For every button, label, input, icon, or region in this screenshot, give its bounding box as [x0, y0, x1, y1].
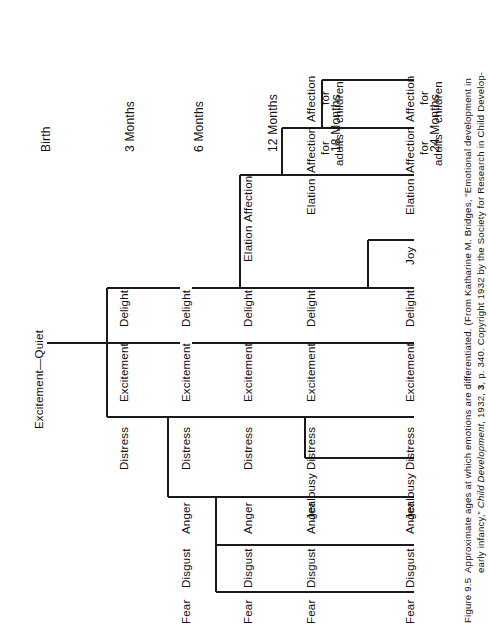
node-m24-affection-for-children-line3: children — [433, 81, 445, 123]
node-m18-elation: Elation — [306, 178, 318, 215]
caption-volume: 3 — [475, 385, 486, 391]
node-m18-disgust: Disgust — [306, 548, 318, 588]
node-m12-elation: Elation — [243, 225, 255, 262]
axis-header-12-months: 12 Months — [267, 94, 279, 152]
figure-number: Figure 9.5 — [461, 578, 475, 623]
axis-header-birth: Birth — [40, 126, 52, 152]
node-m24-delight: Delight — [405, 290, 417, 327]
node-m12-distress: Distress — [243, 427, 255, 470]
node-m12-excitement: Excitement — [243, 343, 255, 402]
figure-caption-line-2: early infancy,” Child Development, 1932,… — [474, 72, 488, 573]
node-m18-anger: Anger — [306, 502, 318, 534]
node-m6-excitement: Excitement — [181, 343, 193, 402]
caption-journal-title: Child Development — [475, 424, 486, 508]
caption-seg-a: early infancy,” — [475, 508, 486, 573]
node-m24-affection-for-adults-line3: adults — [433, 134, 445, 166]
node-m6-delight: Delight — [181, 290, 193, 327]
figure-9-5: Birth 3 Months 6 Months 12 Months 18 Mon… — [0, 0, 488, 631]
node-m18-excitement: Excitement — [306, 343, 318, 402]
node-m18-affection-for-children-line2: for — [320, 91, 332, 105]
node-m6-fear: Fear — [181, 600, 193, 624]
node-m24-affection-for-children-line1: Affection — [405, 76, 417, 122]
node-m6-disgust: Disgust — [181, 548, 193, 588]
node-m6-anger: Anger — [181, 502, 193, 534]
node-m12-delight: Delight — [243, 290, 255, 327]
figure-caption-line-1: Approximate ages at which emotions are d… — [461, 78, 475, 573]
node-m24-affection-for-children-line2: for — [419, 91, 431, 105]
node-m24-disgust: Disgust — [405, 548, 417, 588]
node-m18-fear: Fear — [306, 600, 318, 624]
node-m3-distress: Distress — [119, 427, 131, 470]
caption-seg-c: , p. 340. Copyright 1932 by the Society … — [475, 72, 486, 385]
node-m3-delight: Delight — [119, 290, 131, 327]
node-m12-fear: Fear — [243, 600, 255, 624]
node-birth-excitement-quiet: Excitement—Quiet — [34, 330, 46, 429]
node-m24-joy: Joy — [405, 247, 417, 266]
node-m18-affection-for-children-line3: children — [334, 81, 346, 123]
node-m6-distress: Distress — [181, 427, 193, 470]
node-m18-affection-for-adults-line1: Affection — [306, 127, 318, 173]
node-m12-anger: Anger — [243, 502, 255, 534]
node-m24-distress: Distress — [405, 427, 417, 470]
node-m18-affection-for-adults-line2: for — [320, 141, 332, 155]
node-m24-affection-for-adults-line2: for — [419, 141, 431, 155]
axis-header-3-months: 3 Months — [124, 101, 136, 152]
node-m18-affection-for-children-line1: Affection — [306, 76, 318, 122]
axis-header-6-months: 6 Months — [193, 101, 205, 152]
node-m24-elation: Elation — [405, 178, 417, 215]
node-m18-affection-for-adults-line3: adults — [334, 134, 346, 166]
node-m3-excitement: Excitement — [119, 343, 131, 402]
node-m12-disgust: Disgust — [243, 548, 255, 588]
node-m24-affection-for-adults-line1: Affection — [405, 127, 417, 173]
node-m24-fear: Fear — [405, 600, 417, 624]
node-m24-excitement: Excitement — [405, 343, 417, 402]
node-m18-distress: Distress — [306, 427, 318, 470]
caption-seg-b: , 1932, — [475, 390, 486, 424]
node-m18-delight: Delight — [306, 290, 318, 327]
node-m24-anger: Anger — [405, 502, 417, 534]
node-m12-affection: Affection — [243, 176, 255, 222]
